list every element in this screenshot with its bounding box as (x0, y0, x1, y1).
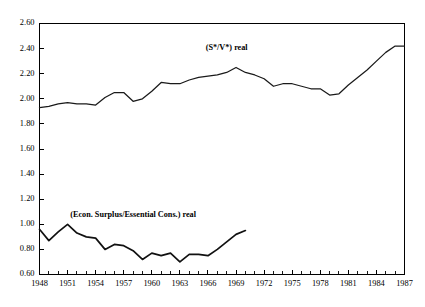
x-tick-label: 1948 (31, 279, 48, 288)
x-axis-ticks (40, 270, 405, 275)
x-tick-label: 1951 (59, 279, 76, 288)
y-axis-ticks (40, 24, 44, 275)
y-tick-label: 2.00 (20, 94, 35, 103)
x-tick-label: 1966 (200, 279, 217, 288)
series-line-2 (40, 224, 246, 262)
x-tick-label: 1957 (115, 279, 132, 288)
x-tick-label: 1963 (172, 279, 189, 288)
x-tick-label: 1972 (256, 279, 273, 288)
y-tick-label: 2.60 (20, 18, 35, 27)
x-axis-tick-labels: 1948195119541957196019631966196919721975… (31, 279, 413, 288)
y-tick-label: 1.20 (20, 194, 35, 203)
y-tick-label: 1.80 (20, 119, 35, 128)
y-tick-label: 0.60 (20, 269, 35, 278)
y-axis-tick-labels: 2.602.402.202.001.801.601.401.201.000.80… (20, 18, 35, 278)
y-tick-label: 1.60 (20, 144, 35, 153)
x-tick-label: 1981 (340, 279, 357, 288)
y-tick-label: 0.80 (20, 244, 35, 253)
data-series-layer (40, 46, 405, 262)
series-annotation-2: (Econ. Surplus/Essential Cons.) real (70, 210, 196, 219)
x-tick-label: 1987 (396, 279, 413, 288)
x-tick-label: 1960 (143, 279, 160, 288)
y-tick-label: 1.40 (20, 169, 35, 178)
x-tick-label: 1975 (284, 279, 301, 288)
y-tick-label: 2.40 (20, 44, 35, 53)
line-chart: 2.602.402.202.001.801.601.401.201.000.80… (0, 0, 425, 307)
x-tick-label: 1954 (87, 279, 105, 288)
series-annotations: (S*/V*) real(Econ. Surplus/Essential Con… (70, 43, 248, 219)
series-annotation-1: (S*/V*) real (206, 43, 249, 52)
y-tick-label: 1.00 (20, 219, 35, 228)
plot-frame (40, 24, 405, 275)
x-tick-label: 1969 (228, 279, 245, 288)
chart-container: 2.602.402.202.001.801.601.401.201.000.80… (0, 0, 425, 307)
x-tick-label: 1978 (312, 279, 329, 288)
x-tick-label: 1984 (368, 279, 386, 288)
y-tick-label: 2.20 (20, 69, 35, 78)
axis-frame (40, 24, 405, 275)
series-line-1 (40, 46, 405, 107)
